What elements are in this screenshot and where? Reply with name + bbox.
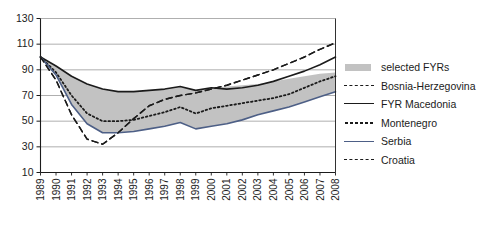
y-axis-tick-label: 70 xyxy=(22,89,34,101)
legend-item-serbia[interactable]: Serbia xyxy=(344,132,478,151)
x-axis-tick-label: 2007 xyxy=(315,178,326,201)
legend-swatch-icon xyxy=(344,154,374,166)
x-axis-ticks: 1989199019911992199319941995199619971998… xyxy=(35,173,341,201)
x-axis-tick-label: 1998 xyxy=(175,178,186,201)
legend-item-montenegro[interactable]: Montenegro xyxy=(344,114,478,133)
x-axis-tick-label: 2001 xyxy=(221,178,232,201)
x-axis-tick-label: 1993 xyxy=(97,178,108,201)
x-axis-tick-label: 1995 xyxy=(128,178,139,201)
line-chart-svg: 1030507090110130 19891990199119921993199… xyxy=(0,0,345,239)
x-axis-tick-label: 1996 xyxy=(144,178,155,201)
legend-swatch-icon xyxy=(344,98,374,110)
y-axis-tick-label: 30 xyxy=(22,140,34,152)
x-axis-tick-label: 2003 xyxy=(252,178,263,201)
y-axis-tick-label: 90 xyxy=(22,63,34,75)
legend-item-fyr-macedonia[interactable]: FYR Macedonia xyxy=(344,95,478,114)
x-axis-tick-label: 2008 xyxy=(330,178,341,201)
legend-swatch-icon xyxy=(344,80,374,92)
legend-item-selected-fyrs[interactable]: selected FYRs xyxy=(344,58,478,77)
legend-swatch-icon xyxy=(344,117,374,129)
x-axis-tick-label: 2002 xyxy=(237,178,248,201)
legend-item-label: Montenegro xyxy=(381,118,437,129)
legend-item-label: Bosnia-Herzegovina xyxy=(381,81,476,92)
x-axis-tick-label: 1992 xyxy=(82,178,93,201)
chart-figure: 1030507090110130 19891990199119921993199… xyxy=(0,0,478,239)
x-axis-tick-label: 1997 xyxy=(159,178,170,201)
x-axis-tick-label: 2000 xyxy=(206,178,217,201)
x-axis-tick-label: 1990 xyxy=(51,178,62,201)
legend-marker xyxy=(344,141,374,142)
legend-item-label: FYR Macedonia xyxy=(381,99,456,110)
legend-marker xyxy=(344,159,374,160)
legend-item-label: selected FYRs xyxy=(381,62,449,73)
x-axis-tick-label: 2005 xyxy=(284,178,295,201)
legend-marker xyxy=(344,122,374,124)
plot-area: 1030507090110130 19891990199119921993199… xyxy=(0,0,345,239)
x-axis-tick-label: 1999 xyxy=(190,178,201,201)
legend-marker xyxy=(344,85,374,86)
x-axis-tick-label: 1989 xyxy=(35,178,46,201)
legend-item-label: Croatia xyxy=(381,155,415,166)
legend-swatch-icon xyxy=(344,61,374,73)
legend-item-croatia[interactable]: Croatia xyxy=(344,151,478,170)
chart-legend: selected FYRsBosnia-HerzegovinaFYR Maced… xyxy=(344,58,478,170)
legend-marker xyxy=(344,103,374,104)
x-axis-tick-label: 1991 xyxy=(66,178,77,201)
legend-marker xyxy=(345,64,371,71)
y-axis-tick-label: 130 xyxy=(16,12,34,24)
y-axis-ticks: 1030507090110130 xyxy=(16,12,41,178)
y-axis-tick-label: 10 xyxy=(22,166,34,178)
y-axis-tick-label: 110 xyxy=(17,37,34,49)
legend-item-bosnia-herzegovina[interactable]: Bosnia-Herzegovina xyxy=(344,77,478,96)
y-axis-tick-label: 50 xyxy=(22,114,34,126)
x-axis-tick-label: 1994 xyxy=(113,178,124,201)
x-axis-tick-label: 2004 xyxy=(268,178,279,201)
legend-swatch-icon xyxy=(344,136,374,148)
x-axis-tick-label: 2006 xyxy=(299,178,310,201)
legend-item-label: Serbia xyxy=(381,136,411,147)
